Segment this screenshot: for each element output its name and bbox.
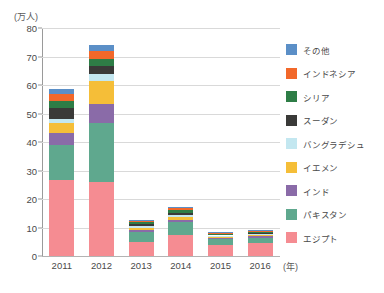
y-tick-label-0: 0 [32,251,37,262]
bar-segment[interactable] [248,234,273,235]
gridline-0 [42,256,280,257]
legend-item-label: シリア [303,91,329,103]
bar-segment[interactable] [49,101,74,108]
bar-group-2014[interactable] [168,28,193,256]
legend-swatch-icon [286,68,297,79]
bar-segment[interactable] [89,104,114,124]
y-tick-label-80: 80 [26,23,37,34]
bar-group-2015[interactable] [208,28,233,256]
bar-segment[interactable] [248,231,273,232]
bar-segment[interactable] [168,213,193,215]
legend-item[interactable]: バングラデシュ [286,132,382,156]
bar-segment[interactable] [89,74,114,81]
bar-segment[interactable] [168,210,193,213]
x-tick-label-2011: 2011 [52,260,72,271]
plot-area: 80706050403020100 [42,28,280,256]
bar-segment[interactable] [208,234,233,235]
bar-segment[interactable] [129,221,154,222]
x-axis-unit-label: (年) [283,260,298,273]
bar-segment[interactable] [208,238,233,239]
bar-segment[interactable] [208,236,233,237]
bar-segment[interactable] [168,235,193,256]
bar-segment[interactable] [129,222,154,224]
bar-segment[interactable] [208,232,233,233]
bar-segment[interactable] [129,242,154,256]
legend-item-label: エジプト [303,232,338,244]
bar-segment[interactable] [248,238,273,244]
bar-segment[interactable] [129,232,154,243]
y-tick-label-30: 30 [26,165,37,176]
y-tick-label-40: 40 [26,137,37,148]
legend-item-label: イエメン [303,161,338,173]
bar-segment[interactable] [49,89,74,93]
bar-segment[interactable] [89,45,114,51]
y-tick-label-60: 60 [26,80,37,91]
legend-item-label: スーダン [303,114,338,126]
bar-group-2012[interactable] [89,28,114,256]
bar-segment[interactable] [168,208,193,210]
legend-item-label: その他 [303,44,329,56]
legend-swatch-icon [286,115,297,126]
legend-item[interactable]: パキスタン [286,203,382,227]
bar-segment[interactable] [129,226,154,227]
legend-item[interactable]: エジプト [286,226,382,250]
bar-segment[interactable] [248,233,273,234]
bar-segment[interactable] [168,222,193,236]
bar-segment[interactable] [89,123,114,181]
legend-swatch-icon [286,162,297,173]
bar-segment[interactable] [89,182,114,256]
legend: その他インドネシアシリアスーダンバングラデシュイエメンインドパキスタンエジプト [286,38,382,250]
bar-segment[interactable] [248,243,273,256]
bar-segment[interactable] [208,236,233,237]
bar-segment[interactable] [248,230,273,231]
bar-segment[interactable] [208,245,233,256]
bar-group-2013[interactable] [129,28,154,256]
bar-segment[interactable] [89,59,114,66]
legend-swatch-icon [286,209,297,220]
bar-segment[interactable] [208,234,233,235]
legend-swatch-icon [286,44,297,55]
legend-item-label: インド [303,185,329,197]
bar-segment[interactable] [89,51,114,60]
bar-segment[interactable] [168,220,193,222]
bar-segment[interactable] [248,232,273,233]
bar-segment[interactable] [208,239,233,246]
x-tick-label-2016: 2016 [250,260,271,271]
bar-segment[interactable] [89,66,114,73]
bar-segment[interactable] [168,217,193,220]
bar-segment[interactable] [129,230,154,232]
bar-segment[interactable] [168,215,193,217]
bar-segment[interactable] [168,207,193,209]
bar-segment[interactable] [208,233,233,234]
bar-segment[interactable] [49,133,74,144]
bar-segment[interactable] [49,145,74,181]
bar-segment[interactable] [49,180,74,256]
bar-segment[interactable] [49,108,74,119]
bar-segment[interactable] [129,220,154,221]
y-tick-label-50: 50 [26,108,37,119]
legend-item[interactable]: インドネシア [286,62,382,86]
legend-item[interactable]: スーダン [286,109,382,133]
bars-layer [42,28,280,256]
y-tick-label-20: 20 [26,194,37,205]
bar-segment[interactable] [248,236,273,237]
legend-item-label: パキスタン [303,208,347,220]
bar-segment[interactable] [49,123,74,133]
bar-segment[interactable] [49,94,74,101]
y-tick-label-70: 70 [26,51,37,62]
bar-group-2011[interactable] [49,28,74,256]
legend-swatch-icon [286,91,297,102]
bar-segment[interactable] [129,228,154,231]
legend-item[interactable]: シリア [286,85,382,109]
bar-segment[interactable] [248,235,273,237]
x-axis-tick-labels: 201120122013201420152016 [42,258,280,276]
bar-segment[interactable] [89,81,114,104]
legend-item[interactable]: イエメン [286,156,382,180]
legend-item[interactable]: その他 [286,38,382,62]
legend-item[interactable]: インド [286,179,382,203]
bar-group-2016[interactable] [248,28,273,256]
x-tick-label-2014: 2014 [170,260,191,271]
x-tick-label-2012: 2012 [91,260,112,271]
bar-segment[interactable] [129,224,154,226]
bar-segment[interactable] [49,119,74,123]
